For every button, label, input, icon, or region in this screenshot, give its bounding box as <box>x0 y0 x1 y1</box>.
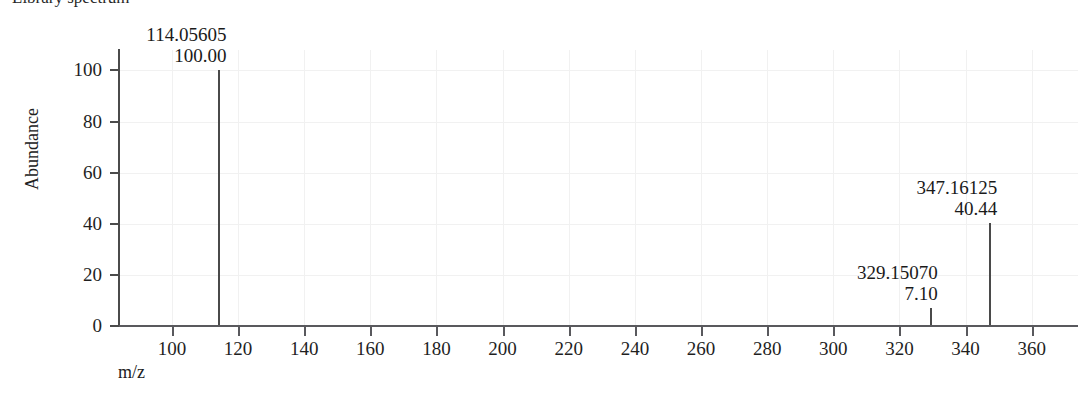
x-axis-tick-label: 340 <box>931 339 1001 359</box>
peak-label: 114.05605100.00 <box>108 24 226 66</box>
x-axis-tick-label: 300 <box>798 339 868 359</box>
gridline-vertical <box>436 50 437 326</box>
x-axis-tick-label: 220 <box>534 339 604 359</box>
gridline-vertical <box>304 50 305 326</box>
x-axis-tick <box>172 327 174 336</box>
x-axis-tick <box>899 327 901 336</box>
x-axis-tick <box>635 327 637 336</box>
peak-label: 329.150707.10 <box>820 262 938 304</box>
x-axis-tick-label: 100 <box>137 339 207 359</box>
x-axis-tick <box>833 327 835 336</box>
y-axis-tick-label: 20 <box>42 265 102 284</box>
plot-area: 114.05605100.00329.150707.10347.1612540.… <box>119 50 1078 326</box>
gridline-vertical <box>701 50 702 326</box>
y-axis-tick-label: 100 <box>42 60 102 79</box>
x-axis-tick-label: 240 <box>600 339 670 359</box>
gridline-horizontal <box>119 224 1078 225</box>
x-axis-tick <box>1032 327 1034 336</box>
peak-line <box>930 308 932 326</box>
y-axis-tick <box>110 172 119 174</box>
gridline-horizontal <box>119 70 1078 71</box>
y-axis-tick <box>110 274 119 276</box>
y-axis-tick <box>110 121 119 123</box>
x-axis-tick <box>304 327 306 336</box>
peak-mz-value: 114.05605 <box>108 24 226 45</box>
gridline-vertical <box>238 50 239 326</box>
gridline-vertical <box>172 50 173 326</box>
y-axis-tick-label: 40 <box>42 214 102 233</box>
x-axis-tick-label: 120 <box>203 339 273 359</box>
gridline-vertical <box>503 50 504 326</box>
peak-mz-value: 347.16125 <box>879 177 997 198</box>
library-spectrum-figure: Library spectrum Abundance m/z 114.05605… <box>0 0 1084 401</box>
x-axis-tick <box>503 327 505 336</box>
gridline-vertical <box>1032 50 1033 326</box>
peak-mz-value: 329.15070 <box>820 262 938 283</box>
peak-intensity-value: 100.00 <box>108 45 226 66</box>
x-axis-tick <box>701 327 703 336</box>
x-axis-line <box>118 325 1078 327</box>
y-axis-tick <box>110 325 119 327</box>
x-axis-tick-label: 320 <box>864 339 934 359</box>
x-axis-tick-label: 140 <box>269 339 339 359</box>
x-axis-tick-label: 280 <box>732 339 802 359</box>
y-axis-tick <box>110 69 119 71</box>
peak-label: 347.1612540.44 <box>879 177 997 219</box>
x-axis-tick <box>767 327 769 336</box>
x-axis-title: m/z <box>118 363 145 381</box>
gridline-vertical <box>767 50 768 326</box>
x-axis-tick-label: 360 <box>997 339 1067 359</box>
x-axis-tick <box>238 327 240 336</box>
x-axis-tick <box>436 327 438 336</box>
peak-line <box>989 223 991 326</box>
gridline-horizontal <box>119 122 1078 123</box>
peak-line <box>218 70 220 326</box>
x-axis-tick-label: 160 <box>335 339 405 359</box>
gridline-vertical <box>370 50 371 326</box>
x-axis-tick-label: 180 <box>401 339 471 359</box>
y-axis-title: Abundance <box>23 69 41 229</box>
y-axis-tick-label: 0 <box>42 316 102 335</box>
y-axis-tick-label: 80 <box>42 112 102 131</box>
x-axis-tick-label: 200 <box>468 339 538 359</box>
x-axis-tick <box>966 327 968 336</box>
gridline-vertical <box>569 50 570 326</box>
x-axis-tick <box>370 327 372 336</box>
y-axis-line <box>118 49 120 327</box>
page-title: Library spectrum <box>12 0 130 6</box>
gridline-horizontal <box>119 173 1078 174</box>
x-axis-tick-label: 260 <box>666 339 736 359</box>
peak-intensity-value: 40.44 <box>879 198 997 219</box>
x-axis-tick <box>569 327 571 336</box>
peak-intensity-value: 7.10 <box>820 283 938 304</box>
gridline-vertical <box>635 50 636 326</box>
y-axis-tick-label: 60 <box>42 163 102 182</box>
y-axis-tick <box>110 223 119 225</box>
